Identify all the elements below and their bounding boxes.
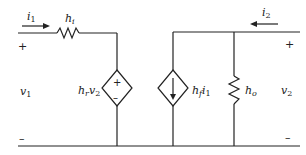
v2-plus-sign: +: [285, 38, 294, 51]
isource-arrow-head: [170, 94, 176, 100]
i2-arrow-head: [250, 21, 257, 27]
i1-arrow-head: [43, 23, 50, 29]
hf-i1-label: hfi1: [192, 84, 211, 98]
v1-minus-sign: –: [19, 132, 25, 145]
resistor-hi: [57, 28, 79, 38]
ho-label: ho: [245, 84, 257, 98]
vsource-plus-sign: +: [113, 77, 121, 88]
resistor-ho: [229, 76, 239, 104]
vsource-minus-sign: –: [113, 92, 118, 103]
hr-v2-label: hrv2: [78, 84, 100, 98]
circuit-diagram: i1 hi + v1 – hrv2 + – hfi1 ho i2 + v2 –: [0, 0, 306, 155]
v1-label: v1: [20, 85, 31, 99]
hi-label: hi: [65, 12, 75, 26]
v1-plus-sign: +: [18, 40, 27, 53]
v2-label: v2: [281, 84, 292, 98]
i2-label: i2: [262, 6, 271, 20]
i1-label: i1: [27, 10, 36, 24]
v2-minus-sign: –: [285, 131, 291, 144]
